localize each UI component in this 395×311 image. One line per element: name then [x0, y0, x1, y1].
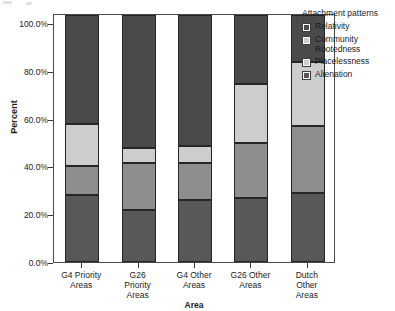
bar-segment-relativity	[65, 15, 99, 124]
x-tick-label: G26PriorityAreas	[107, 270, 169, 300]
legend-item-label: CommunityRootedness	[315, 35, 360, 54]
x-tick-mark	[250, 263, 251, 268]
bar-segment-alienation	[178, 200, 212, 262]
legend-item: Placelessness	[302, 57, 394, 67]
y-tick-label: 0.0%	[2, 259, 48, 267]
bar-segment-placelessness	[291, 126, 325, 193]
bar-segment-alienation	[65, 195, 99, 262]
y-axis-ticks: 100.0% 80.0% 60.0% 40.0% 20.0% 0.0%	[0, 0, 48, 311]
legend-swatch-icon	[302, 71, 311, 80]
bar-segment-community-rootedness	[178, 146, 212, 163]
legend-item-label: Placelessness	[315, 57, 369, 67]
plot-area	[53, 14, 335, 263]
x-tick-mark	[194, 263, 195, 268]
bar-segment-alienation	[291, 193, 325, 262]
legend: Attachment patterns RelativityCommunityR…	[302, 8, 394, 83]
x-tick-mark	[138, 263, 139, 268]
y-tick-label: 80.0%	[2, 68, 48, 76]
bar-segment-placelessness	[122, 163, 156, 210]
legend-swatch-icon	[302, 23, 311, 32]
x-tick-label: DutchOtherAreas	[276, 270, 338, 300]
bar-segment-alienation	[234, 198, 268, 262]
bar-segment-placelessness	[234, 143, 268, 197]
legend-item: CommunityRootedness	[302, 35, 394, 54]
legend-item-label: Relativity	[315, 22, 349, 32]
stacked-bar	[234, 15, 268, 262]
y-tick-label: 20.0%	[2, 211, 48, 219]
bar-segment-relativity	[122, 15, 156, 148]
bar-segment-placelessness	[178, 163, 212, 200]
bar-segment-relativity	[178, 15, 212, 146]
bar-segment-community-rootedness	[65, 124, 99, 166]
y-tick-label: 40.0%	[2, 163, 48, 171]
x-tick-label: G4 PriorityAreas	[50, 270, 112, 290]
legend-title: Attachment patterns	[302, 8, 394, 18]
stacked-bar	[178, 15, 212, 262]
bar-segment-alienation	[122, 210, 156, 262]
x-tick-label: G4 OtherAreas	[163, 270, 225, 290]
x-tick-mark	[307, 263, 308, 268]
x-axis-title: Area	[53, 300, 335, 310]
legend-item: Relativity	[302, 22, 394, 32]
bar-segment-community-rootedness	[122, 148, 156, 163]
stacked-bar	[122, 15, 156, 262]
chart-root: Percent 100.0% 80.0% 60.0% 40.0% 20.0% 0…	[0, 0, 395, 311]
bars-container	[54, 15, 334, 262]
legend-items: RelativityCommunityRootednessPlacelessne…	[302, 22, 394, 80]
bar-segment-community-rootedness	[234, 84, 268, 143]
legend-item-label: Alienation	[315, 70, 352, 80]
y-tick-label: 60.0%	[2, 116, 48, 124]
x-tick-mark	[81, 263, 82, 268]
legend-item: Alienation	[302, 70, 394, 80]
legend-swatch-icon	[302, 58, 311, 67]
stacked-bar	[65, 15, 99, 262]
bar-segment-relativity	[234, 15, 268, 84]
x-tick-label: G26 OtherAreas	[219, 270, 281, 290]
bar-segment-placelessness	[65, 166, 99, 196]
x-axis-ticks	[53, 263, 335, 269]
y-tick-label: 100.0%	[2, 20, 48, 28]
legend-swatch-icon	[302, 36, 311, 45]
